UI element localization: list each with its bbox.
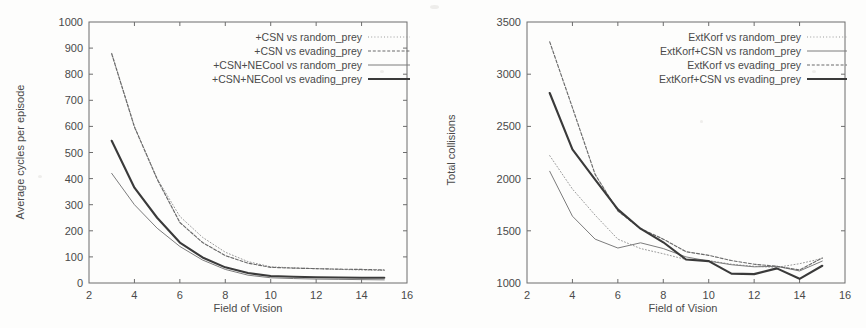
scan-artifact xyxy=(430,5,439,9)
legend-label: +CSN vs random_prey xyxy=(255,31,362,43)
x-tick-label: 16 xyxy=(839,289,851,301)
y-tick-label: 3000 xyxy=(497,68,521,80)
y-tick-label: 800 xyxy=(65,68,83,80)
data-series-line xyxy=(550,171,823,271)
y-tick-label: 2000 xyxy=(497,173,521,185)
figure-container: 2468101214160100200300400500600700800900… xyxy=(0,0,866,328)
x-tick-label: 10 xyxy=(703,289,715,301)
y-tick-label: 1000 xyxy=(59,16,83,28)
x-tick-label: 12 xyxy=(310,289,322,301)
legend-label: ExtKorf+CSN vs random_prey xyxy=(660,45,802,57)
y-tick-label: 300 xyxy=(65,199,83,211)
data-series-line xyxy=(112,54,385,270)
left-chart-svg: 2468101214160100200300400500600700800900… xyxy=(0,0,433,328)
x-tick-label: 4 xyxy=(569,289,575,301)
legend-label: ExtKorf vs evading_prey xyxy=(687,59,802,71)
x-tick-label: 4 xyxy=(131,289,137,301)
y-tick-label: 700 xyxy=(65,94,83,106)
y-tick-label: 1500 xyxy=(497,225,521,237)
x-tick-label: 2 xyxy=(86,289,92,301)
x-axis-title: Field of Vision xyxy=(214,302,283,314)
data-series-line xyxy=(112,173,385,279)
data-series-line xyxy=(550,93,823,279)
x-tick-label: 6 xyxy=(177,289,183,301)
y-tick-label: 0 xyxy=(77,277,83,289)
y-tick-label: 2500 xyxy=(497,120,521,132)
scan-artifact xyxy=(380,70,384,73)
x-axis-title: Field of Vision xyxy=(649,302,718,314)
chart-panel-left: 2468101214160100200300400500600700800900… xyxy=(0,0,433,328)
y-tick-label: 200 xyxy=(65,225,83,237)
data-series-line xyxy=(112,53,385,270)
y-tick-label: 500 xyxy=(65,147,83,159)
x-tick-label: 14 xyxy=(355,289,367,301)
chart-panel-right: 246810121416100015002000250030003500 Ext… xyxy=(433,0,866,328)
scan-artifact xyxy=(38,175,42,178)
data-series-line xyxy=(112,141,385,278)
x-tick-label: 12 xyxy=(748,289,760,301)
x-tick-label: 14 xyxy=(793,289,805,301)
y-tick-label: 3500 xyxy=(497,16,521,28)
x-tick-label: 10 xyxy=(265,289,277,301)
legend-label: ExtKorf vs random_prey xyxy=(688,31,801,43)
y-tick-label: 400 xyxy=(65,173,83,185)
y-tick-label: 900 xyxy=(65,42,83,54)
y-tick-label: 600 xyxy=(65,120,83,132)
x-tick-label: 8 xyxy=(222,289,228,301)
y-tick-label: 100 xyxy=(65,251,83,263)
x-tick-label: 2 xyxy=(524,289,530,301)
legend-label: +CSN+NECool vs random_prey xyxy=(213,59,363,71)
x-tick-label: 16 xyxy=(401,289,413,301)
scan-artifact xyxy=(448,165,452,168)
legend-label: +CSN+NECool vs evading_prey xyxy=(212,73,363,85)
y-axis-title: Total collisions xyxy=(445,114,457,185)
legend-label: ExtKorf+CSN vs evading_prey xyxy=(659,73,802,85)
x-tick-label: 8 xyxy=(660,289,666,301)
scan-artifact xyxy=(700,120,703,123)
x-tick-label: 6 xyxy=(615,289,621,301)
y-tick-label: 1000 xyxy=(497,277,521,289)
y-axis-title: Average cycles per episode xyxy=(14,85,26,220)
right-chart-svg: 246810121416100015002000250030003500 Ext… xyxy=(433,0,866,328)
legend-label: +CSN vs evading_prey xyxy=(254,45,362,57)
scan-artifact xyxy=(812,70,816,73)
